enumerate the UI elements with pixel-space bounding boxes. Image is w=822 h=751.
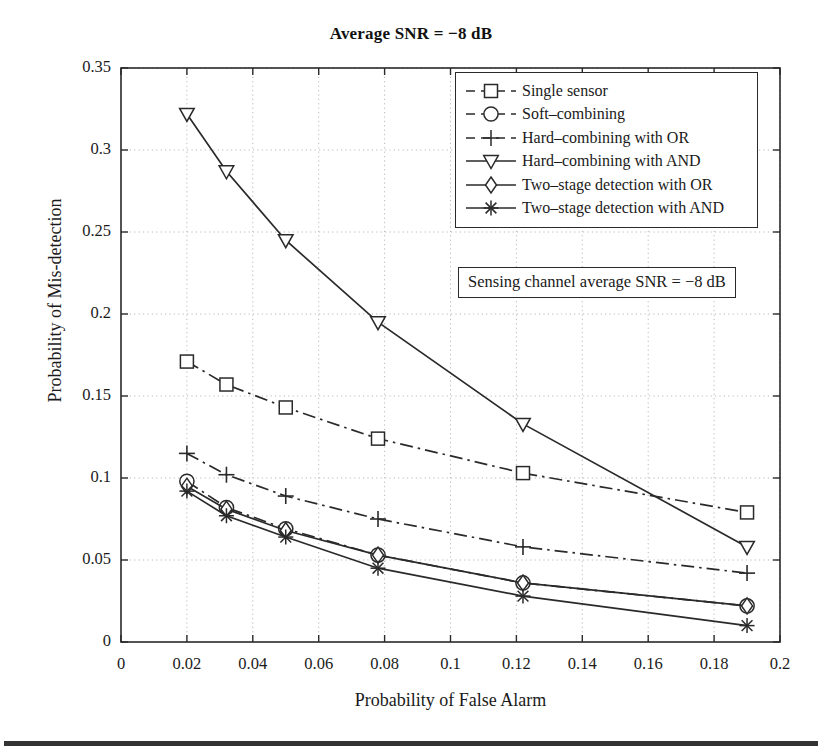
y-tick-label: 0.1 [41,467,111,487]
legend-label: Hard–combining with OR [518,129,689,147]
page-divider-rule [4,741,818,746]
data-series [181,478,752,614]
triangle-down-marker [464,150,518,172]
circle-marker [464,103,518,125]
x-tick-label: 0.14 [547,654,617,674]
legend-item: Hard–combining with OR [464,126,749,150]
legend-label: Two–stage detection with OR [518,176,712,194]
legend-item: Hard–combining with AND [464,150,749,174]
legend-item: Single sensor [464,79,749,103]
x-tick-label: 0.06 [284,654,354,674]
x-tick-label: 0.08 [350,654,420,674]
diamond-marker [464,174,518,196]
x-tick-label: 0.02 [152,654,222,674]
asterisk-marker [464,197,518,219]
x-tick-label: 0.1 [416,654,486,674]
x-tick-label: 0.16 [613,654,683,674]
data-series [180,474,754,613]
data-series [180,355,753,519]
y-axis-title: Probability of Mis-detection [45,141,66,461]
legend-label: Soft–combining [518,105,625,123]
legend: Single sensorSoft–combiningHard–combinin… [455,72,758,228]
chart-figure: Average SNR = −8 dB 00.050.10.150.20.250… [0,0,822,751]
y-tick-label: 0 [41,631,111,651]
data-series [179,445,755,581]
legend-item: Two–stage detection with AND [464,197,749,221]
data-series [179,484,754,633]
y-tick-label: 0.35 [41,57,111,77]
legend-label: Hard–combining with AND [518,152,701,170]
square-marker [464,80,518,102]
y-tick-label: 0.05 [41,549,111,569]
x-tick-label: 0.04 [218,654,288,674]
plus-marker [464,127,518,149]
legend-item: Two–stage detection with OR [464,173,749,197]
x-axis-title: Probability of False Alarm [121,690,780,711]
legend-label: Single sensor [518,82,608,100]
x-tick-label: 0.2 [745,654,815,674]
x-tick-label: 0 [86,654,156,674]
legend-item: Soft–combining [464,103,749,127]
annotation-label: Sensing channel average SNR = −8 dB [458,267,736,298]
x-tick-label: 0.18 [679,654,749,674]
legend-label: Two–stage detection with AND [518,199,724,217]
x-tick-label: 0.12 [481,654,551,674]
